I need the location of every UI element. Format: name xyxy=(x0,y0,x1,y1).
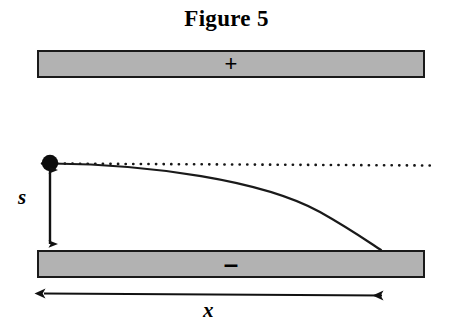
diagram-vector-layer xyxy=(0,0,453,330)
figure-container: Figure 5 + – xyxy=(0,0,453,330)
charged-particle-dot xyxy=(42,155,58,171)
particle-trajectory-curve xyxy=(52,164,381,251)
distance-arrow-x xyxy=(44,294,382,296)
label-s: s xyxy=(18,185,26,210)
label-x: x xyxy=(203,298,214,323)
